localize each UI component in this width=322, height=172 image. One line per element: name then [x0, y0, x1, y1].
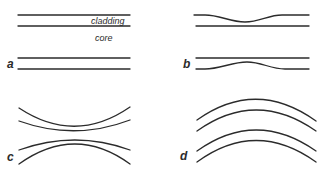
panel-c: c [7, 107, 130, 164]
panel-c-cladding-bottom [19, 144, 130, 164]
panel-label-b: b [183, 57, 190, 71]
core-label: core [95, 33, 113, 43]
fiber-diagram: cladding core a b c d [0, 0, 322, 172]
panel-d-core-top [197, 110, 316, 131]
panel-a: cladding core a [7, 15, 130, 71]
cladding-label: cladding [91, 16, 125, 26]
panel-label-c: c [7, 150, 14, 164]
panel-label-a: a [7, 57, 14, 71]
panel-b-cladding-bottom [196, 62, 309, 69]
panel-label-d: d [180, 149, 188, 163]
panel-c-core-top [19, 120, 130, 131]
panel-d-cladding-bottom [197, 141, 316, 163]
panel-d: d [180, 99, 316, 163]
panel-b-cladding-top [194, 15, 309, 22]
panel-b: b [183, 15, 309, 71]
panel-c-cladding-top [19, 107, 130, 126]
panel-c-core-bottom [19, 140, 130, 150]
